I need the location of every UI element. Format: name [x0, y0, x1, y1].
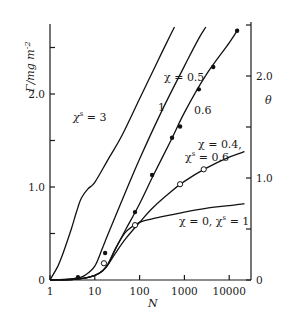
y-tick-label: 0: [38, 274, 45, 286]
y2-tick-label: 2.0: [256, 70, 273, 82]
series-curve: [50, 27, 175, 280]
annotation-chi-05: χ = 0.5: [164, 71, 204, 84]
open-data-point: [201, 167, 206, 172]
annotation-chi-04: χ = 0.4,: [198, 138, 242, 151]
filled-data-point: [211, 65, 215, 69]
annotations: χs = 3 χ = 0.5 1 0.6 χ = 0.4, χs = 0.6 χ…: [72, 71, 249, 228]
y-axis-label: Γ/mg m-2: [23, 41, 37, 93]
filled-data-point: [170, 136, 174, 140]
x-axis-label: N: [147, 297, 158, 310]
x-tick-label: 10: [88, 285, 101, 297]
adsorption-chart: 11010010001000001.02.001.02.0 Γ/mg m-2 θ…: [0, 0, 286, 326]
y2-tick-label: 1.0: [256, 172, 273, 184]
tick-labels: 11010010001000001.02.001.02.0: [28, 70, 272, 297]
open-data-point: [101, 261, 106, 266]
annotation-chis-1: 1: [158, 101, 165, 114]
filled-data-point: [235, 29, 239, 33]
filled-data-point: [197, 87, 201, 91]
series-curve: [50, 27, 206, 280]
y-tick-label: 1.0: [28, 181, 45, 193]
filled-data-point: [133, 210, 137, 214]
annotation-chis-3: χs = 3: [72, 110, 106, 124]
open-data-point: [132, 223, 137, 228]
filled-data-point: [103, 251, 107, 255]
x-tick-label: 1: [47, 285, 54, 297]
open-data-point: [177, 182, 182, 187]
annotation-chis-06: 0.6: [194, 104, 212, 117]
filled-data-point: [76, 275, 80, 279]
x-tick-label: 10000: [212, 285, 245, 297]
y2-axis-label: θ: [265, 94, 272, 107]
filled-data-point: [150, 173, 154, 177]
annotation-chi-0-chis-1: χ = 0, χs = 1: [179, 214, 249, 228]
x-tick-label: 100: [130, 285, 150, 297]
filled-data-point: [178, 124, 182, 128]
annotation-chis-06b: χs = 0.6: [185, 150, 229, 164]
x-tick-label: 1000: [171, 285, 198, 297]
y2-tick-label: 0: [256, 274, 263, 286]
